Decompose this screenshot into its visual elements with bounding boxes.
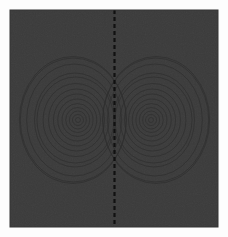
screenshot-root xyxy=(0,0,228,237)
contour-figure xyxy=(0,0,228,237)
contour-plot-canvas xyxy=(0,0,228,237)
